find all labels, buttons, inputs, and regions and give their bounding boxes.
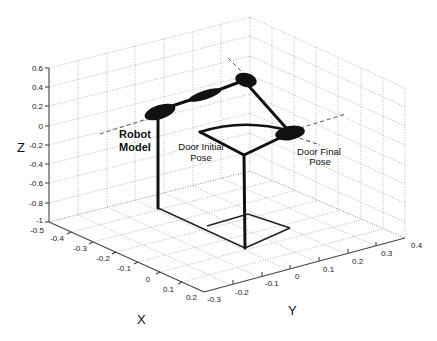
y-tick-label: 0.1 (323, 265, 335, 274)
y-tick-label: 0.2 (352, 257, 364, 266)
z-tick-label: 0.6 (32, 64, 44, 73)
x-ticks: -0.5 -0.4 -0.3 -0.2 -0.1 0 0.1 0.2 (30, 226, 197, 302)
z-tick-label: -1 (36, 216, 44, 225)
y-tick-label: -0.2 (235, 288, 249, 297)
x-tick-label: -0.5 (30, 226, 44, 235)
x-tick-label: -0.4 (50, 234, 64, 243)
3d-plot: 0.6 0.4 0.2 0 -0.2 -0.4 -0.6 -0.8 -1 Z -… (0, 0, 437, 341)
robot-model-label: Model (119, 141, 151, 153)
y-axis-label: Y (288, 303, 297, 318)
grid-lines (49, 17, 405, 285)
plot-figure: 0.6 0.4 0.2 0 -0.2 -0.4 -0.6 -0.8 -1 Z -… (0, 0, 437, 341)
x-tick-label: 0 (146, 275, 151, 284)
door-final-label: Pose (309, 156, 331, 167)
y-tick-label: -0.3 (207, 295, 221, 304)
z-tick-label: -0.2 (29, 141, 43, 150)
floor-projection (158, 208, 290, 248)
door-initial-label: Pose (190, 152, 212, 163)
z-tick-label: 0.2 (32, 102, 44, 111)
x-axis (49, 222, 204, 292)
y-tick-label: 0.4 (411, 241, 423, 250)
z-ticks: 0.6 0.4 0.2 0 -0.2 -0.4 -0.6 -0.8 -1 (29, 64, 49, 225)
y-tick-label: -0.1 (265, 279, 279, 288)
y-axis (204, 238, 405, 292)
robot-model-label: Robot (119, 128, 151, 140)
x-tick-label: -0.1 (117, 264, 131, 273)
x-tick-label: 0.2 (186, 293, 198, 302)
z-axis-label: Z (17, 140, 25, 155)
z-tick-label: -0.4 (29, 160, 43, 169)
y-tick-label: 0 (295, 272, 300, 281)
y-ticks: -0.3 -0.2 -0.1 0 0.1 0.2 0.3 0.4 (207, 241, 423, 304)
z-tick-label: -0.6 (29, 179, 43, 188)
z-tick-label: -0.8 (29, 199, 43, 208)
z-tick-label: 0.4 (32, 83, 44, 92)
z-tick-label: 0 (39, 122, 44, 131)
x-tick-label: -0.3 (73, 244, 87, 253)
door-initial-label: Door Initial (178, 141, 223, 152)
x-tick-label: 0.1 (163, 285, 175, 294)
x-tick-label: -0.2 (96, 254, 110, 263)
x-axis-label: X (137, 312, 146, 327)
y-tick-label: 0.3 (381, 249, 393, 258)
